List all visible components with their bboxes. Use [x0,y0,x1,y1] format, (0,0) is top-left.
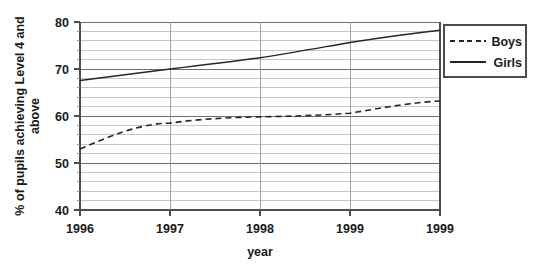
legend: Boys Girls [444,25,526,77]
x-tick-label-5: 1999 [426,222,454,236]
y-axis-title: % of pupils achieving Level 4 and above [13,16,42,215]
chart-canvas: 80 70 60 50 40 1996 1997 1998 1999 1999 … [0,0,534,268]
x-tick-label-1: 1996 [66,222,94,236]
y-tick-label-60: 60 [55,110,69,124]
legend-label-girls: Girls [494,56,523,70]
x-tick-label-4: 1999 [336,222,364,236]
x-axis-title: year [247,245,273,259]
y-tick-label-50: 50 [55,157,69,171]
x-tick-label-3: 1998 [246,222,274,236]
x-axis-ticks [80,210,440,216]
y-tick-label-70: 70 [55,63,69,77]
legend-label-boys: Boys [491,35,522,49]
y-tick-label-40: 40 [55,204,69,218]
y-axis-title-line-2: above [28,98,42,134]
x-tick-label-2: 1997 [156,222,184,236]
line-chart: 80 70 60 50 40 1996 1997 1998 1999 1999 … [0,0,534,268]
y-axis-title-line-1: % of pupils achieving Level 4 and [13,16,27,215]
y-tick-label-80: 80 [55,16,69,30]
